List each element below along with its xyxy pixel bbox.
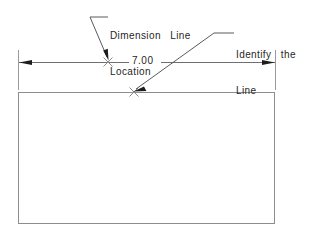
annotation-label-dimension-line-location: Dimension Line Location [110,6,191,102]
technical-drawing-canvas: Dimension Line Location Identify the Lin… [0,0,318,238]
dimension-arrowhead-left [19,60,32,65]
annotation-line-1: Dimension Line [110,30,191,42]
annotation-line-1: Identify the [236,49,296,61]
annotation-line-2: Line [236,85,296,97]
annotation-label-identify-the-line: Identify the Line [236,25,296,121]
annotation-line-2: Location [110,66,191,78]
dimension-value-text: 7.00 [130,55,155,66]
leader-dimension-line-location [90,17,109,61]
